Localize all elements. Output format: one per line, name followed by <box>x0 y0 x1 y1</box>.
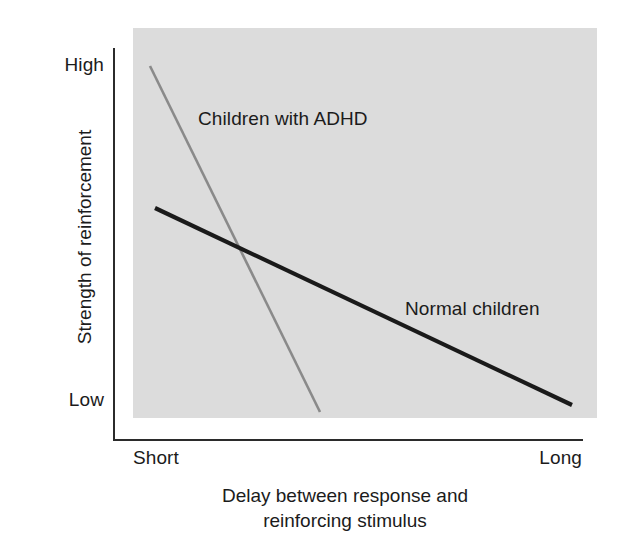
x-axis-title-line-2: reinforcing stimulus <box>145 508 545 533</box>
y-axis-title: Strength of reinforcement <box>74 42 96 432</box>
series-label-normal: Normal children <box>405 298 540 320</box>
y-axis-line <box>113 48 115 441</box>
chart-figure: Children with ADHD Normal children High … <box>0 0 624 537</box>
x-axis-title: Delay between response and reinforcing s… <box>145 483 545 533</box>
x-axis-title-line-1: Delay between response and <box>145 483 545 508</box>
plot-area <box>133 28 597 418</box>
x-tick-label-short: Short <box>133 447 179 469</box>
x-tick-label-long: Long <box>458 447 582 469</box>
x-axis-line <box>113 439 583 441</box>
series-label-adhd: Children with ADHD <box>198 108 368 130</box>
